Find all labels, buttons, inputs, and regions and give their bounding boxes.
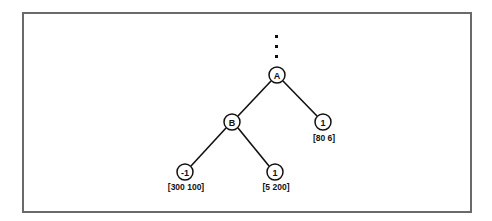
node-r-value: [80 6]: [313, 133, 335, 143]
node-lr: 1 [5 200]: [263, 164, 290, 192]
node-a-label: A: [274, 71, 281, 81]
edge-b-lr: [238, 128, 269, 166]
tree-diagram: A B 1 [80 6] -1 [300 100] 1 [5 200]: [0, 0, 492, 221]
node-b: B: [224, 114, 240, 130]
ellipsis-icon: [275, 35, 278, 58]
edge-a-r: [283, 81, 317, 116]
node-r: 1 [80 6]: [313, 114, 335, 143]
edge-a-b: [238, 81, 271, 116]
node-ll-label: -1: [181, 168, 189, 178]
edge-b-ll: [191, 128, 226, 166]
node-ll: -1 [300 100]: [168, 164, 205, 192]
node-a: A: [269, 67, 285, 83]
node-lr-value: [5 200]: [263, 182, 290, 192]
node-r-label: 1: [320, 118, 325, 128]
node-ll-value: [300 100]: [168, 182, 205, 192]
node-lr-label: 1: [272, 168, 277, 178]
node-b-label: B: [229, 118, 236, 128]
